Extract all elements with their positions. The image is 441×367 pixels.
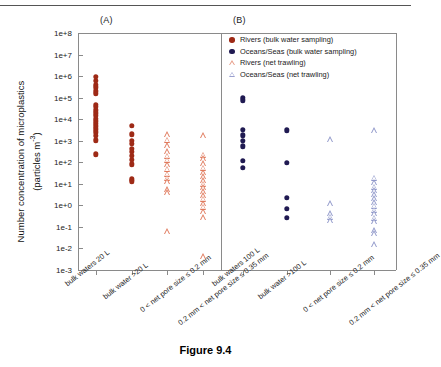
data-point <box>164 189 170 195</box>
legend-item: Rivers (bulk water sampling) <box>224 34 357 46</box>
data-point-inner <box>165 180 169 184</box>
y-axis-title: Number concentration of microplastics (p… <box>15 57 42 267</box>
data-point <box>200 132 206 138</box>
x-axis-tick-mark <box>330 271 331 275</box>
data-point-inner <box>165 191 169 195</box>
plot-right-border <box>396 33 397 270</box>
data-point <box>371 241 377 247</box>
y-axis-tick-label: 1e+1 <box>54 179 72 188</box>
y-axis-tick-mark <box>79 76 83 77</box>
x-axis-tick-label: bulk water >100 L <box>256 258 308 301</box>
legend-marker <box>229 72 235 77</box>
x-axis-tick-mark <box>167 271 168 275</box>
y-axis-title-units-close: ) <box>31 132 42 135</box>
chart-legend: Rivers (bulk water sampling)Oceans/Seas … <box>224 34 357 80</box>
data-point <box>284 128 289 133</box>
data-point <box>129 132 134 137</box>
y-axis-tick-mark <box>79 205 83 206</box>
legend-label: Oceans/Seas (net trawling) <box>240 70 329 79</box>
data-point-inner <box>328 138 332 142</box>
data-point-inner <box>165 230 169 234</box>
data-point <box>200 208 206 214</box>
data-point <box>129 179 134 184</box>
y-axis-tick-label: 1e-2 <box>56 244 72 253</box>
data-point <box>284 160 289 165</box>
legend-item: Oceans/Seas (bulk water sampling) <box>224 46 357 58</box>
y-axis-tick-label: 1e+8 <box>54 29 72 38</box>
data-point <box>164 178 170 184</box>
y-axis-tick-mark <box>79 55 83 56</box>
data-point <box>93 138 98 143</box>
y-axis-tick-mark <box>79 184 83 185</box>
data-point-inner <box>372 243 376 247</box>
data-point-inner <box>201 255 205 259</box>
panel-b-label: (B) <box>233 15 246 25</box>
panel-divider-line <box>221 33 222 270</box>
data-point <box>129 162 134 167</box>
y-axis-tick-mark <box>79 119 83 120</box>
y-axis-tick-label: 1e+0 <box>54 201 72 210</box>
y-axis-tick-mark <box>79 227 83 228</box>
data-point <box>240 165 245 170</box>
data-point-inner <box>201 134 205 138</box>
legend-label: Rivers (bulk water sampling) <box>240 35 333 44</box>
y-axis-tick-label: 1e+7 <box>54 50 72 59</box>
y-axis-title-exponent: -3 <box>29 136 36 142</box>
y-axis-tick-mark <box>79 162 83 163</box>
data-point <box>371 127 377 133</box>
legend-filled-circle-icon <box>224 37 240 43</box>
legend-item: Rivers (net trawling) <box>224 57 357 69</box>
legend-label: Rivers (net trawling) <box>240 58 306 67</box>
legend-open-triangle-icon <box>224 60 240 65</box>
data-point <box>284 215 289 220</box>
y-axis-title-units: (particles m <box>31 142 42 191</box>
data-point-inner <box>328 202 332 206</box>
x-axis-tick-mark <box>203 271 204 275</box>
data-point <box>371 218 377 224</box>
data-point <box>327 200 333 206</box>
y-axis-tick-label: 1e-1 <box>56 222 72 231</box>
x-axis-tick-label: bulk water >20 L <box>101 260 149 301</box>
data-point <box>327 136 333 142</box>
y-axis-title-main: Number concentration of microplastics <box>15 81 26 243</box>
data-point <box>240 143 245 148</box>
legend-item: Oceans/Seas (net trawling) <box>224 69 357 81</box>
y-axis-tick-label: 1e+2 <box>54 158 72 167</box>
data-point-inner <box>372 220 376 224</box>
y-axis-tick-label: 1e+5 <box>54 93 72 102</box>
data-point-inner <box>201 216 205 220</box>
data-point <box>129 123 134 128</box>
y-axis-tick-mark <box>79 248 83 249</box>
x-axis-tick-mark <box>374 271 375 275</box>
data-point-inner <box>201 210 205 214</box>
data-point <box>93 91 98 96</box>
legend-open-triangle-icon <box>224 72 240 77</box>
data-point-inner <box>372 129 376 133</box>
data-point <box>164 228 170 234</box>
data-point <box>284 206 289 211</box>
y-axis-tick-label: 1e-3 <box>56 266 72 275</box>
x-axis-tick-label: 0.2 mm < net pore size ≤ 0.35 mm <box>176 251 270 327</box>
data-point-inner <box>328 219 332 223</box>
data-point <box>284 195 289 200</box>
y-axis-tick-mark <box>79 141 83 142</box>
data-point <box>240 158 245 163</box>
legend-marker <box>229 37 235 43</box>
y-axis-tick-label: 1e+3 <box>54 136 72 145</box>
data-point <box>371 230 377 236</box>
panel-a-label: (A) <box>100 15 113 25</box>
legend-label: Oceans/Seas (bulk water sampling) <box>240 47 357 56</box>
figure-caption: Figure 9.4 <box>0 344 411 356</box>
legend-marker <box>229 60 235 65</box>
data-point <box>93 152 98 157</box>
legend-filled-circle-icon <box>224 49 240 55</box>
y-axis-tick-label: 1e+4 <box>54 115 72 124</box>
data-point <box>200 253 206 259</box>
data-point <box>240 98 245 103</box>
data-point-inner <box>372 232 376 236</box>
y-axis-line <box>78 33 79 270</box>
y-axis-tick-mark <box>79 98 83 99</box>
y-axis-tick-label: 1e+6 <box>54 72 72 81</box>
x-axis-tick-mark <box>96 271 97 275</box>
